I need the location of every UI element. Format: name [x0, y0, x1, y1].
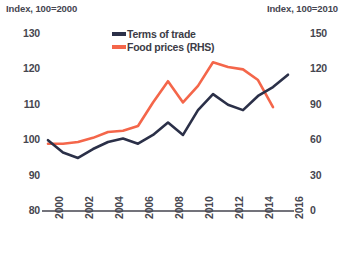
plot-area: [0, 0, 342, 262]
chart-container: Index, 100=2000 Index, 100=2010 13012011…: [0, 0, 342, 262]
series-line-terms-of-trade: [48, 75, 288, 158]
series-line-food-prices: [48, 62, 273, 143]
